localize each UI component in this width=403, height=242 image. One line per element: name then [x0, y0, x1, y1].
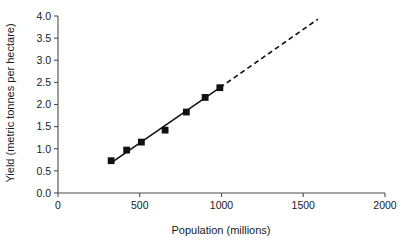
- data-point-marker: [123, 147, 130, 154]
- y-tick-label: 2.5: [36, 76, 51, 88]
- data-point-marker: [138, 139, 145, 146]
- x-tick-label: 0: [55, 199, 61, 211]
- y-tick-label: 4.0: [36, 10, 51, 22]
- y-tick-label: 2.0: [36, 98, 51, 110]
- x-tick-label: 1000: [210, 199, 234, 211]
- y-tick-label: 3.0: [36, 54, 51, 66]
- x-tick-label: 2000: [373, 199, 397, 211]
- x-tick-label: 500: [131, 199, 149, 211]
- scatter-chart: 0.00.51.01.52.02.53.03.54.0 050010001500…: [0, 0, 403, 242]
- data-point-marker: [202, 94, 209, 101]
- y-tick-label: 1.0: [36, 143, 51, 155]
- data-point-marker: [183, 109, 190, 116]
- data-points: [108, 84, 224, 164]
- x-tick-label: 1500: [292, 199, 316, 211]
- chart-container: 0.00.51.01.52.02.53.03.54.0 050010001500…: [0, 0, 403, 242]
- data-point-marker: [162, 127, 169, 134]
- data-point-marker: [216, 84, 223, 91]
- y-tick-label: 3.5: [36, 32, 51, 44]
- y-tick-label: 0.0: [36, 187, 51, 199]
- y-axis: 0.00.51.01.52.02.53.03.54.0: [36, 10, 58, 199]
- y-axis-title: Yield (metric tonnes per hectare): [4, 23, 16, 182]
- x-axis-title: Population (millions): [171, 224, 270, 236]
- x-axis: 0500100015002000: [55, 193, 397, 211]
- y-tick-label: 0.5: [36, 165, 51, 177]
- y-tick-label: 1.5: [36, 120, 51, 132]
- trend-line-dashed: [220, 19, 318, 88]
- data-point-marker: [108, 157, 115, 164]
